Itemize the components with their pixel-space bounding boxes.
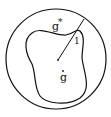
radius-label: 1 [74,36,80,46]
center-point [57,59,59,61]
diagram-canvas: g * 1 g [0,0,111,117]
inner-region-label: g [60,71,67,84]
inner-region-dot [62,70,64,72]
outer-region-superscript: * [58,17,63,27]
